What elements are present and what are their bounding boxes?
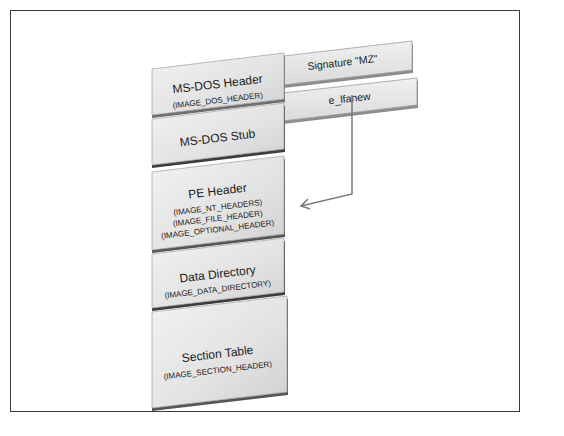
block-pe-header: PE Header (IMAGE_NT_HEADERS) (IMAGE_FILE… — [152, 156, 285, 253]
block-section-table: Section Table (IMAGE_SECTION_HEADER) — [152, 296, 288, 411]
pe-structure-diagram: Signature "MZ" e_lfanew MS-DOS Header (I… — [0, 0, 564, 436]
